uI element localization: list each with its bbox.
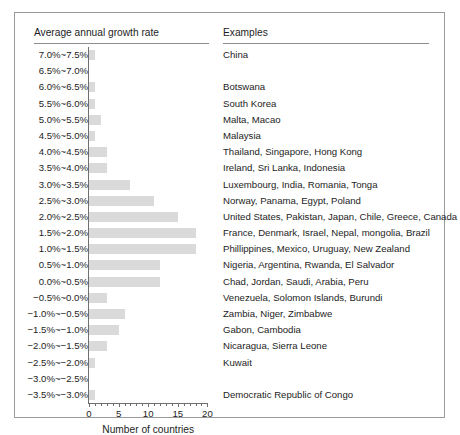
bar <box>89 341 107 351</box>
category-tick-label: −3.0%~−2.5% <box>27 373 88 384</box>
left-column-header: Average annual growth rate <box>34 27 159 38</box>
bar <box>89 293 107 303</box>
right-header-rule <box>223 43 429 44</box>
value-axis-minor-tick <box>154 403 155 406</box>
example-countries: Ireland, Sri Lanka, Indonesia <box>223 162 345 173</box>
value-axis-tick-label: 10 <box>143 408 154 419</box>
bar <box>89 228 196 238</box>
bar-row: −2.0%~−1.5%Nicaragua, Sierra Leone <box>15 338 446 354</box>
bar-row: 1.0%~1.5%Phillippines, Mexico, Uruguay, … <box>15 241 446 257</box>
category-tick-label: −1.0%~−0.5% <box>27 308 88 319</box>
bar-row: 5.0%~5.5%Malta, Macao <box>15 112 446 128</box>
value-axis: 05101520Number of countries <box>15 403 446 435</box>
example-countries: China <box>223 49 248 60</box>
bar-row: 7.0%~7.5%China <box>15 47 446 63</box>
category-tick-label: 2.5%~3.0% <box>39 195 88 206</box>
bar-row: 4.5%~5.0%Malaysia <box>15 128 446 144</box>
value-axis-title: Number of countries <box>102 424 194 435</box>
example-countries: Zambia, Niger, Zimbabwe <box>223 308 332 319</box>
value-axis-minor-tick <box>101 403 102 406</box>
bar-row: 6.5%~7.0% <box>15 63 446 79</box>
value-axis-minor-tick <box>196 403 197 406</box>
value-axis-tick-label: 15 <box>172 408 183 419</box>
bar <box>89 180 130 190</box>
bar-row: 6.0%~6.5%Botswana <box>15 79 446 95</box>
bar-row: −0.5%~0.0%Venezuela, Solomon Islands, Bu… <box>15 290 446 306</box>
value-axis-minor-tick <box>136 403 137 406</box>
value-axis-tick <box>89 403 90 407</box>
value-axis-tick-label: 0 <box>86 408 91 419</box>
bar-row: 2.5%~3.0%Norway, Panama, Egypt, Poland <box>15 193 446 209</box>
bar-row: −1.5%~−1.0%Gabon, Cambodia <box>15 322 446 338</box>
left-header-rule <box>34 43 209 44</box>
value-axis-tick <box>119 403 120 407</box>
category-tick-label: −3.5%~−3.0% <box>27 389 88 400</box>
value-axis-minor-tick <box>172 403 173 406</box>
chart-figure: Average annual growth rate Examples 7.0%… <box>14 12 445 418</box>
bar <box>89 212 178 222</box>
bar <box>89 147 107 157</box>
category-tick-label: 1.5%~2.0% <box>39 227 88 238</box>
bar-row: −3.5%~−3.0%Democratic Republic of Congo <box>15 387 446 403</box>
right-column-header: Examples <box>223 27 268 38</box>
bar-row: 3.0%~3.5%Luxembourg, India, Romania, Ton… <box>15 177 446 193</box>
value-axis-tick <box>207 403 208 407</box>
category-tick-label: 0.0%~0.5% <box>39 276 88 287</box>
example-countries: Venezuela, Solomon Islands, Burundi <box>223 292 382 303</box>
bar-row: 4.0%~4.5%Thailand, Singapore, Hong Kong <box>15 144 446 160</box>
example-countries: United States, Pakistan, Japan, Chile, G… <box>223 211 457 222</box>
bar-row: 2.0%~2.5%United States, Pakistan, Japan,… <box>15 209 446 225</box>
bar <box>89 163 107 173</box>
bar-row: 5.5%~6.0%South Korea <box>15 96 446 112</box>
example-countries: Malaysia <box>223 130 261 141</box>
value-axis-tick <box>148 403 149 407</box>
value-axis-minor-tick <box>130 403 131 406</box>
example-countries: Norway, Panama, Egypt, Poland <box>223 195 361 206</box>
value-axis-minor-tick <box>113 403 114 406</box>
value-axis-minor-tick <box>125 403 126 406</box>
example-countries: Nigeria, Argentina, Rwanda, El Salvador <box>223 259 394 270</box>
bar-row: 0.5%~1.0%Nigeria, Argentina, Rwanda, El … <box>15 257 446 273</box>
bar <box>89 50 95 60</box>
category-tick-label: 4.0%~4.5% <box>39 146 88 157</box>
bar <box>89 131 95 141</box>
category-tick-label: −1.5%~−1.0% <box>27 324 88 335</box>
bar <box>89 115 101 125</box>
category-tick-label: 6.5%~7.0% <box>39 65 88 76</box>
category-tick-label: 1.0%~1.5% <box>39 243 88 254</box>
category-tick-label: 7.0%~7.5% <box>39 49 88 60</box>
category-tick-label: 0.5%~1.0% <box>39 259 88 270</box>
example-countries: Democratic Republic of Congo <box>223 389 353 400</box>
bar-row: 3.5%~4.0%Ireland, Sri Lanka, Indonesia <box>15 160 446 176</box>
bar <box>89 196 154 206</box>
bar <box>89 82 95 92</box>
value-axis-tick <box>178 403 179 407</box>
example-countries: Kuwait <box>223 357 252 368</box>
bar-row: −1.0%~−0.5%Zambia, Niger, Zimbabwe <box>15 306 446 322</box>
example-countries: Phillippines, Mexico, Uruguay, New Zeala… <box>223 243 410 254</box>
example-countries: South Korea <box>223 98 276 109</box>
bar <box>89 358 95 368</box>
value-axis-minor-tick <box>95 403 96 406</box>
example-countries: Chad, Jordan, Saudi, Arabia, Peru <box>223 276 369 287</box>
example-countries: Gabon, Cambodia <box>223 324 301 335</box>
category-tick-label: −0.5%~0.0% <box>33 292 88 303</box>
value-axis-tick-label: 5 <box>116 408 121 419</box>
category-tick-label: 5.5%~6.0% <box>39 98 88 109</box>
category-tick-label: −2.0%~−1.5% <box>27 340 88 351</box>
value-axis-minor-tick <box>142 403 143 406</box>
value-axis-minor-tick <box>166 403 167 406</box>
value-axis-minor-tick <box>184 403 185 406</box>
category-tick-label: 5.0%~5.5% <box>39 114 88 125</box>
bar <box>89 390 95 400</box>
example-countries: France, Denmark, Israel, Nepal, mongolia… <box>223 227 430 238</box>
example-countries: Thailand, Singapore, Hong Kong <box>223 146 362 157</box>
category-tick-label: 3.0%~3.5% <box>39 179 88 190</box>
value-axis-minor-tick <box>160 403 161 406</box>
value-axis-tick-label: 20 <box>202 408 213 419</box>
bar <box>89 260 160 270</box>
example-countries: Nicaragua, Sierra Leone <box>223 340 327 351</box>
category-tick-label: 4.5%~5.0% <box>39 130 88 141</box>
category-tick-label: −2.5%~−2.0% <box>27 357 88 368</box>
category-tick-label: 6.0%~6.5% <box>39 81 88 92</box>
